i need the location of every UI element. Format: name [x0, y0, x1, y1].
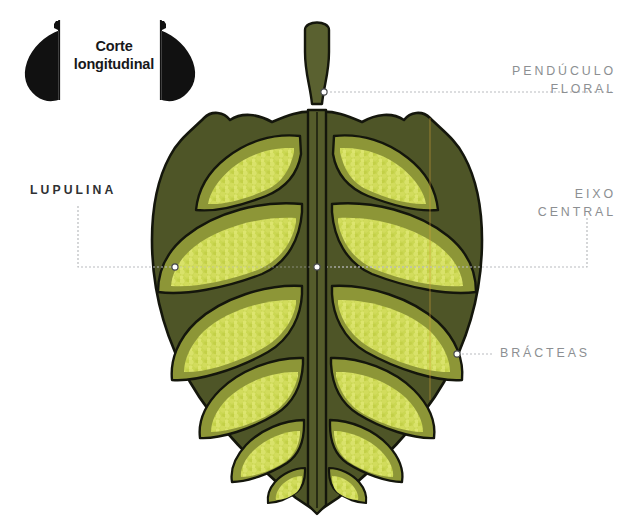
callout-penduculo-line1: PENDÚCULO	[512, 64, 616, 78]
callout-eixo-line2: CENTRAL	[538, 205, 616, 219]
callout-penduculo-floral: PENDÚCULOFLORAL	[430, 63, 616, 98]
callout-bracteas: BRÁCTEAS	[500, 345, 630, 363]
marker-lupulina	[172, 264, 178, 270]
callout-lupulina-line1: LUPULINA	[30, 183, 116, 197]
badge-line-1: Corte	[95, 38, 132, 54]
badge-line-2: longitudinal	[74, 56, 154, 72]
eixo-central-shape	[308, 110, 326, 514]
marker-penduculo	[321, 89, 327, 95]
corte-longitudinal-label: Cortelongitudinal	[66, 38, 162, 73]
figure-canvas: Cortelongitudinal PENDÚCULOFLORAL EIXOCE…	[0, 0, 634, 529]
callout-lupulina: LUPULINA	[30, 182, 210, 199]
callout-eixo-central: EIXOCENTRAL	[430, 186, 616, 221]
callout-eixo-line1: EIXO	[575, 187, 616, 201]
marker-bracteas	[454, 351, 460, 357]
callout-bracteas-line1: BRÁCTEAS	[500, 346, 590, 360]
marker-eixo	[314, 264, 320, 270]
right-cone-silhouette	[160, 20, 195, 101]
callout-penduculo-line2: FLORAL	[550, 82, 616, 96]
left-cone-silhouette	[25, 20, 60, 101]
hop-cone-body	[152, 110, 482, 514]
corte-longitudinal-badge: Cortelongitudinal	[14, 18, 206, 102]
